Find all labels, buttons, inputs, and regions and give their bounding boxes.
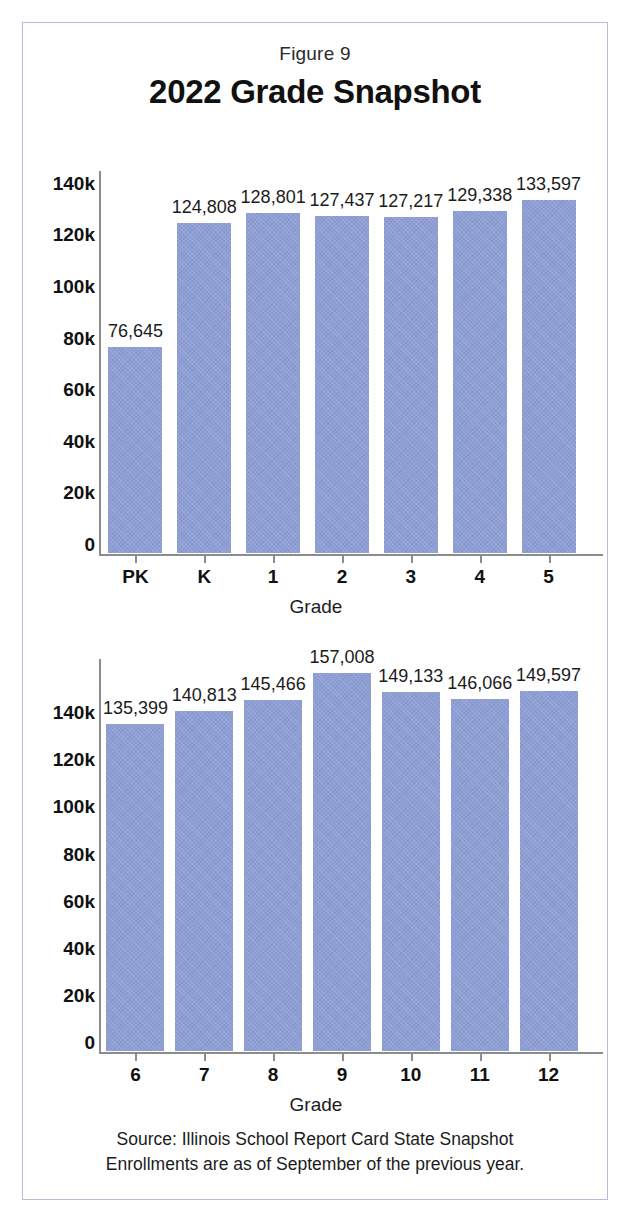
bar-value-label: 149,133 (378, 666, 443, 687)
bar (453, 211, 507, 553)
y-axis-tick-label: 20k (23, 482, 95, 504)
figure-container: Figure 9 2022 Grade Snapshot 020k40k60k8… (22, 22, 608, 1200)
bar (106, 724, 164, 1051)
x-axis-category-label: 10 (400, 1064, 421, 1086)
y-axis-tick-label: 120k (23, 224, 95, 246)
y-axis-tick-label: 120k (23, 749, 95, 771)
bar-value-label: 133,597 (516, 174, 581, 195)
y-axis-tick-label: 140k (23, 173, 95, 195)
bar (451, 699, 509, 1051)
bar-value-label: 76,645 (108, 321, 163, 342)
x-axis-category-label: K (197, 566, 211, 588)
y-axis-tick-label: 80k (23, 328, 95, 350)
y-axis-tick-label: 60k (23, 891, 95, 913)
figure-number: Figure 9 (23, 43, 607, 65)
y-axis-tick-label: 100k (23, 796, 95, 818)
x-axis-tick (411, 1052, 413, 1061)
bar (108, 347, 162, 553)
x-axis-tick (549, 1052, 551, 1061)
x-axis-line (99, 1052, 603, 1054)
source-line-1: Source: Illinois School Report Card Stat… (23, 1127, 607, 1152)
x-axis-category-label: 7 (199, 1064, 210, 1086)
x-axis-category-label: 6 (130, 1064, 141, 1086)
bar-value-label: 146,066 (447, 673, 512, 694)
y-axis-tick-label: 20k (23, 985, 95, 1007)
bar (382, 692, 440, 1051)
bar (244, 700, 302, 1051)
y-axis-tick-label: 140k (23, 702, 95, 724)
y-axis-tick-label: 0 (23, 534, 95, 556)
y-axis-tick-label: 100k (23, 276, 95, 298)
x-axis-tick (135, 1052, 137, 1061)
x-axis-category-label: 3 (406, 566, 417, 588)
bar (520, 691, 578, 1051)
bar-value-label: 140,813 (172, 685, 237, 706)
x-axis-category-label: 12 (538, 1064, 559, 1086)
x-axis-category-label: 4 (474, 566, 485, 588)
x-axis-tick (135, 554, 137, 563)
y-axis-tick-label: 60k (23, 379, 95, 401)
bar (246, 213, 300, 553)
x-axis-tick (480, 554, 482, 563)
bar-value-label: 157,008 (309, 647, 374, 668)
chart-elementary-grades: 020k40k60k80k100k120k140k76,645PK124,808… (23, 141, 609, 596)
bar-value-label: 149,597 (516, 665, 581, 686)
x-axis-category-label: 1 (268, 566, 279, 588)
source-line-2: Enrollments are as of September of the p… (23, 1152, 607, 1177)
y-axis-tick-label: 40k (23, 431, 95, 453)
x-axis-tick (480, 1052, 482, 1061)
x-axis-tick (411, 554, 413, 563)
bar (175, 711, 233, 1051)
bar-value-label: 129,338 (447, 185, 512, 206)
y-axis-tick-label: 0 (23, 1032, 95, 1054)
bar-value-label: 135,399 (103, 698, 168, 719)
bar (522, 200, 576, 553)
bar (315, 216, 369, 553)
x-axis-tick (342, 1052, 344, 1061)
bar-value-label: 124,808 (172, 197, 237, 218)
bar (177, 223, 231, 553)
x-axis-tick (204, 1052, 206, 1061)
y-axis-tick-label: 80k (23, 844, 95, 866)
bar-value-label: 127,217 (378, 191, 443, 212)
y-axis-tick-label: 40k (23, 938, 95, 960)
y-axis-line (99, 659, 101, 1052)
y-axis-line (99, 171, 101, 554)
bar-value-label: 128,801 (241, 187, 306, 208)
x-axis-tick (549, 554, 551, 563)
x-axis-title: Grade (23, 1094, 609, 1116)
x-axis-line (99, 554, 603, 556)
x-axis-category-label: 9 (337, 1064, 348, 1086)
chart-secondary-grades: 020k40k60k80k100k120k140k135,3996140,813… (23, 611, 609, 1126)
x-axis-category-label: PK (122, 566, 148, 588)
x-axis-category-label: 11 (470, 1064, 490, 1086)
bar (384, 217, 438, 553)
figure-title: 2022 Grade Snapshot (23, 73, 607, 111)
bar (313, 673, 371, 1051)
bar-value-label: 127,437 (309, 190, 374, 211)
source-note: Source: Illinois School Report Card Stat… (23, 1127, 607, 1177)
x-axis-tick (273, 554, 275, 563)
x-axis-category-label: 2 (337, 566, 348, 588)
bar-value-label: 145,466 (241, 674, 306, 695)
x-axis-tick (273, 1052, 275, 1061)
x-axis-category-label: 5 (543, 566, 554, 588)
x-axis-category-label: 8 (268, 1064, 279, 1086)
x-axis-tick (342, 554, 344, 563)
x-axis-tick (204, 554, 206, 563)
